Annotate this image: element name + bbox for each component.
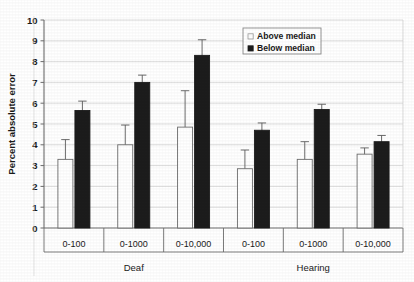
y-tick-label: 8 — [32, 56, 37, 67]
bar-below-median[interactable] — [254, 130, 269, 228]
bar-above-median[interactable] — [118, 145, 133, 228]
legend-label-above-median: Above median — [257, 31, 316, 41]
legend: Above medianBelow median — [243, 28, 321, 54]
y-tick-label: 0 — [32, 223, 37, 234]
y-tick-label: 7 — [32, 77, 37, 88]
bar-below-median[interactable] — [75, 110, 90, 228]
bar-above-median[interactable] — [178, 127, 193, 228]
y-tick-label: 2 — [32, 181, 37, 192]
legend-marker-above-median — [248, 34, 253, 39]
x-category-label: 0-10,000 — [176, 239, 212, 249]
legend-label-below-median: Below median — [257, 43, 315, 53]
y-tick-label: 9 — [32, 35, 37, 46]
y-tick-label: 4 — [32, 139, 38, 150]
bar-above-median[interactable] — [357, 154, 372, 228]
bar-chart: 012345678910Percent absolute error0-1000… — [0, 0, 414, 282]
bar-below-median[interactable] — [195, 55, 210, 228]
y-tick-label: 6 — [32, 98, 37, 109]
bar-below-median[interactable] — [314, 109, 329, 228]
x-category-label: 0-1000 — [120, 239, 148, 249]
bar-above-median[interactable] — [297, 159, 312, 228]
y-tick-label: 5 — [32, 119, 38, 130]
bar-below-median[interactable] — [135, 82, 150, 228]
x-group-label: Deaf — [124, 262, 144, 273]
x-category-label: 0-1000 — [299, 239, 327, 249]
x-group-label: Hearing — [297, 262, 330, 273]
bar-above-median[interactable] — [58, 159, 73, 228]
chart-figure: 012345678910Percent absolute error0-1000… — [0, 0, 414, 282]
bar-below-median[interactable] — [374, 142, 389, 228]
x-category-label: 0-100 — [62, 239, 85, 249]
legend-marker-below-median — [248, 46, 253, 51]
y-tick-label: 10 — [27, 15, 38, 26]
x-category-label: 0-10,000 — [355, 239, 391, 249]
y-tick-label: 1 — [32, 202, 38, 213]
x-category-label: 0-100 — [242, 239, 265, 249]
y-tick-label: 3 — [32, 160, 37, 171]
bar-above-median[interactable] — [237, 169, 252, 228]
y-axis-title: Percent absolute error — [6, 73, 17, 175]
